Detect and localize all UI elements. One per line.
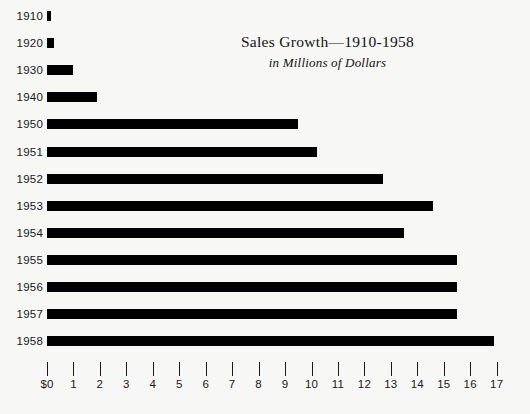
axis-tick-label-10: 10 xyxy=(305,378,318,390)
bar-1920 xyxy=(47,38,54,48)
axis-tick-label-6: 6 xyxy=(202,378,209,390)
bar-row: 1940 xyxy=(0,92,530,114)
year-label-1930: 1930 xyxy=(0,65,43,76)
year-label-1957: 1957 xyxy=(0,309,43,320)
axis-tick-16 xyxy=(470,362,471,376)
year-label-1920: 1920 xyxy=(0,38,43,49)
axis-tick-label-9: 9 xyxy=(282,378,289,390)
year-label-1952: 1952 xyxy=(0,174,43,185)
axis-tick-17 xyxy=(497,362,498,376)
bar-row: 1950 xyxy=(0,119,530,141)
bar-1956 xyxy=(47,282,457,292)
axis-tick-12 xyxy=(364,362,365,376)
axis-tick-8 xyxy=(259,362,260,376)
bar-1910 xyxy=(47,11,51,21)
bar-1954 xyxy=(47,228,404,238)
axis-tick-label-7: 7 xyxy=(229,378,236,390)
axis-tick-2 xyxy=(100,362,101,376)
axis-tick-1 xyxy=(73,362,74,376)
axis-tick-13 xyxy=(391,362,392,376)
axis-tick-14 xyxy=(417,362,418,376)
bar-1950 xyxy=(47,119,298,129)
year-label-1954: 1954 xyxy=(0,228,43,239)
bar-row: 1910 xyxy=(0,11,530,33)
bar-row: 1957 xyxy=(0,309,530,331)
axis-tick-9 xyxy=(285,362,286,376)
year-label-1955: 1955 xyxy=(0,255,43,266)
axis-tick-0 xyxy=(47,362,48,376)
axis-tick-label-17: 17 xyxy=(490,378,503,390)
year-label-1910: 1910 xyxy=(0,11,43,22)
axis-tick-4 xyxy=(153,362,154,376)
year-label-1956: 1956 xyxy=(0,282,43,293)
bar-1955 xyxy=(47,255,457,265)
axis-tick-3 xyxy=(126,362,127,376)
axis-tick-label-2: 2 xyxy=(97,378,104,390)
bar-row: 1951 xyxy=(0,147,530,169)
year-label-1958: 1958 xyxy=(0,336,43,347)
axis-tick-label-5: 5 xyxy=(176,378,183,390)
axis-tick-label-14: 14 xyxy=(411,378,424,390)
bar-1952 xyxy=(47,174,383,184)
axis-tick-label-1: 1 xyxy=(70,378,77,390)
x-axis: $01234567891011121314151617 xyxy=(0,362,530,402)
axis-tick-6 xyxy=(206,362,207,376)
bar-1940 xyxy=(47,92,97,102)
axis-tick-11 xyxy=(338,362,339,376)
axis-tick-10 xyxy=(312,362,313,376)
axis-tick-label-12: 12 xyxy=(358,378,371,390)
year-label-1940: 1940 xyxy=(0,92,43,103)
bar-row: 1953 xyxy=(0,201,530,223)
axis-tick-label-0: $0 xyxy=(40,378,53,390)
axis-tick-7 xyxy=(232,362,233,376)
axis-tick-label-11: 11 xyxy=(332,378,344,390)
axis-tick-15 xyxy=(444,362,445,376)
bar-row: 1955 xyxy=(0,255,530,277)
plot-area: 1910192019301940195019511952195319541955… xyxy=(0,0,530,414)
bar-1953 xyxy=(47,201,433,211)
axis-tick-label-3: 3 xyxy=(123,378,130,390)
year-label-1950: 1950 xyxy=(0,119,43,130)
bar-row: 1954 xyxy=(0,228,530,250)
axis-tick-label-13: 13 xyxy=(384,378,397,390)
axis-tick-label-4: 4 xyxy=(149,378,156,390)
bar-1930 xyxy=(47,65,73,75)
bar-row: 1952 xyxy=(0,174,530,196)
bar-1958 xyxy=(47,336,494,346)
chart-container: Sales Growth—1910-1958 in Millions of Do… xyxy=(0,0,530,414)
axis-tick-label-8: 8 xyxy=(255,378,262,390)
bar-1951 xyxy=(47,147,317,157)
bar-row: 1956 xyxy=(0,282,530,304)
axis-tick-label-16: 16 xyxy=(464,378,477,390)
year-label-1951: 1951 xyxy=(0,147,43,158)
bar-row: 1958 xyxy=(0,336,530,358)
axis-tick-label-15: 15 xyxy=(437,378,450,390)
bar-row: 1920 xyxy=(0,38,530,60)
year-label-1953: 1953 xyxy=(0,201,43,212)
bar-1957 xyxy=(47,309,457,319)
bar-row: 1930 xyxy=(0,65,530,87)
axis-tick-5 xyxy=(179,362,180,376)
